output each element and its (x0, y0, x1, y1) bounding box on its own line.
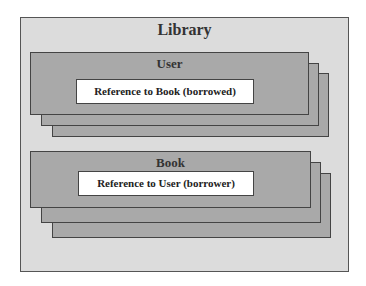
library-title: Library (20, 21, 349, 39)
user-title: User (30, 56, 309, 72)
user-reference-field: Reference to Book (borrowed) (76, 79, 254, 104)
book-title: Book (30, 155, 311, 171)
book-reference-field: Reference to User (borrower) (78, 171, 254, 196)
